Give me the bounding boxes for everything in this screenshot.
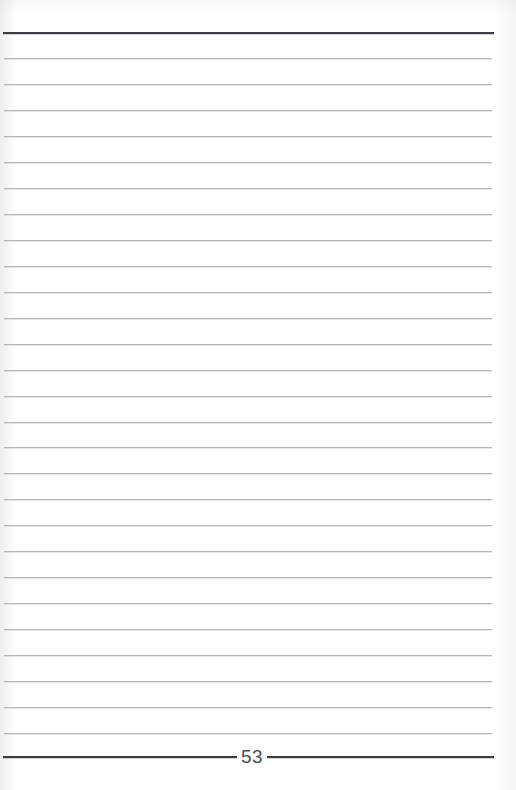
page-number: 53 [237,746,267,768]
ruled-lines-group [0,0,516,790]
ruled-line-24 [4,655,492,656]
ruled-line-6 [4,188,492,189]
ruled-line-14 [4,396,492,397]
ruled-line-11 [4,318,492,319]
ruled-line-20 [4,551,492,552]
ruled-line-5 [4,162,492,163]
ruled-line-8 [4,240,492,241]
ruled-line-16 [4,447,492,448]
notebook-page: 53 [0,0,516,790]
ruled-line-26 [4,707,492,708]
header-rule [3,32,494,34]
ruled-line-1 [4,58,492,59]
ruled-line-18 [4,499,492,500]
ruled-line-22 [4,603,492,604]
ruled-line-7 [4,214,492,215]
ruled-line-3 [4,110,492,111]
ruled-line-10 [4,292,492,293]
ruled-line-27 [4,733,492,734]
ruled-line-15 [4,422,492,423]
ruled-line-12 [4,344,492,345]
ruled-line-2 [4,84,492,85]
ruled-line-25 [4,681,492,682]
ruled-line-4 [4,136,492,137]
ruled-line-9 [4,266,492,267]
ruled-line-23 [4,629,492,630]
ruled-line-17 [4,473,492,474]
ruled-line-19 [4,525,492,526]
ruled-line-13 [4,370,492,371]
ruled-line-21 [4,577,492,578]
